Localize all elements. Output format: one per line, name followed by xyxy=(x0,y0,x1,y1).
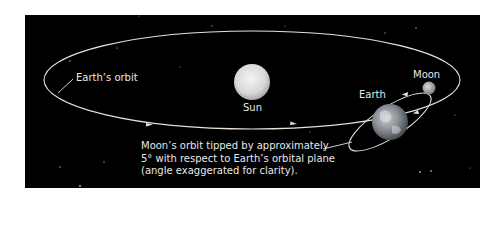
moon-orbit-arrow-icon xyxy=(402,92,408,97)
caption-line-1: Moon’s orbit tipped by approximately xyxy=(141,140,335,153)
earth-orbit-leader-line xyxy=(58,79,73,93)
caption-line-3: (angle exaggerated for clarity). xyxy=(141,165,335,178)
earth-label: Earth xyxy=(359,89,386,101)
orbit-arrow-icon xyxy=(290,122,297,126)
sun-icon xyxy=(234,64,270,100)
moon-icon xyxy=(423,82,436,95)
sun-label: Sun xyxy=(243,102,262,114)
caption-line-2: 5° with respect to Earth’s orbital plane xyxy=(141,153,335,166)
moon-orbit-caption: Moon’s orbit tipped by approximately 5° … xyxy=(141,140,335,178)
earth-icon xyxy=(372,104,408,140)
moon-label: Moon xyxy=(413,69,440,81)
earth-orbit-label: Earth’s orbit xyxy=(76,72,138,84)
